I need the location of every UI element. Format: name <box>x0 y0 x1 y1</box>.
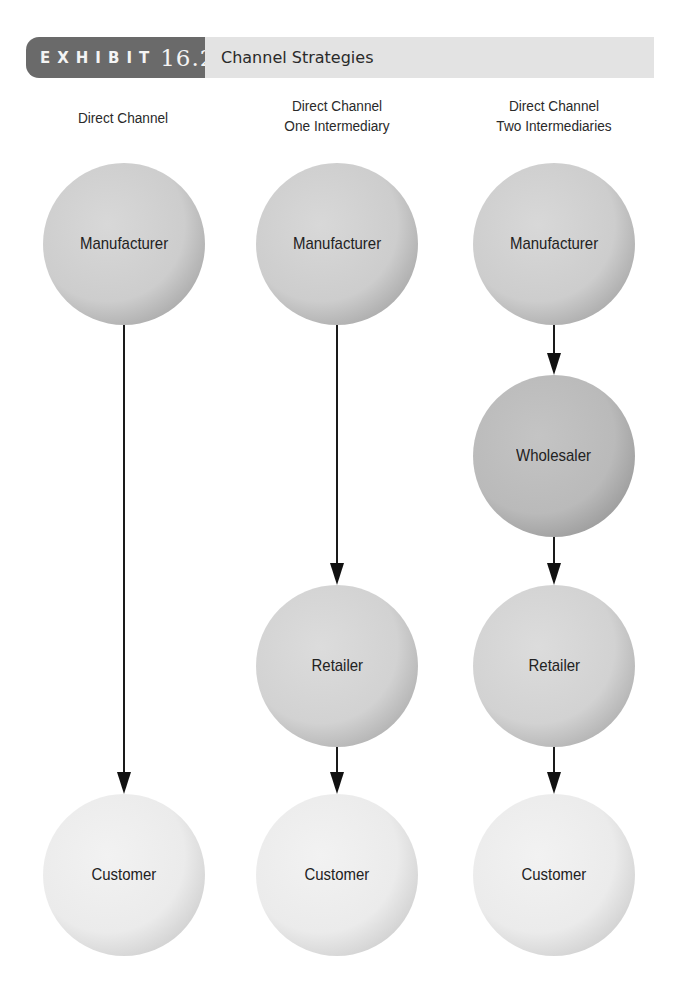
arrow-col2-retailer-to-customer <box>330 746 344 794</box>
node-col2-retailer: Retailer <box>256 585 418 747</box>
node-col2-manufacturer: Manufacturer <box>256 163 418 325</box>
node-label: Manufacturer <box>510 234 598 254</box>
node-label: Manufacturer <box>80 234 168 254</box>
arrow-col3-manufacturer-to-wholesaler <box>547 325 561 375</box>
arrow-col2-manufacturer-to-retailer <box>330 325 344 585</box>
node-col2-customer: Customer <box>256 794 418 956</box>
node-label: Manufacturer <box>293 234 381 254</box>
node-label: Retailer <box>311 656 363 676</box>
node-col1-customer: Customer <box>43 794 205 956</box>
arrow-col3-retailer-to-customer <box>547 746 561 794</box>
arrow-col3-wholesaler-to-retailer <box>547 536 561 585</box>
arrow-col1-manufacturer-to-customer <box>117 325 131 794</box>
node-label: Wholesaler <box>517 446 592 466</box>
node-col3-retailer: Retailer <box>473 585 635 747</box>
node-label: Customer <box>522 865 587 885</box>
node-col3-manufacturer: Manufacturer <box>473 163 635 325</box>
node-label: Retailer <box>528 656 580 676</box>
node-col1-manufacturer: Manufacturer <box>43 163 205 325</box>
node-label: Customer <box>92 865 157 885</box>
node-label: Customer <box>305 865 370 885</box>
node-col3-customer: Customer <box>473 794 635 956</box>
node-col3-wholesaler: Wholesaler <box>473 375 635 537</box>
